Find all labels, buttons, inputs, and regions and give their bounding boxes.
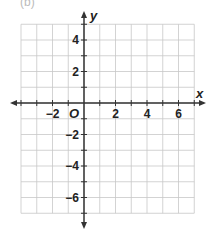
- y-tick-label: −6: [65, 191, 79, 205]
- y-tick-label: −4: [65, 159, 79, 173]
- x-tick-label: 4: [144, 107, 151, 121]
- y-axis-down-arrow-icon: [81, 222, 87, 229]
- x-tick-label: −2: [46, 107, 60, 121]
- x-tick-label: 2: [112, 107, 119, 121]
- partial-label: (b): [20, 0, 35, 9]
- coordinate-plane: (b) −224642−2−4−6 x y O: [0, 0, 210, 233]
- y-tick-label: 2: [72, 65, 79, 79]
- y-tick-label: 4: [72, 33, 79, 47]
- y-axis-up-arrow-icon: [81, 11, 87, 18]
- y-axis-label: y: [89, 8, 98, 23]
- origin-label: O: [69, 106, 79, 121]
- x-axis-left-arrow-icon: [10, 100, 17, 106]
- y-tick-label: −2: [65, 128, 79, 142]
- x-axis-label: x: [195, 86, 204, 101]
- x-tick-label: 6: [175, 107, 182, 121]
